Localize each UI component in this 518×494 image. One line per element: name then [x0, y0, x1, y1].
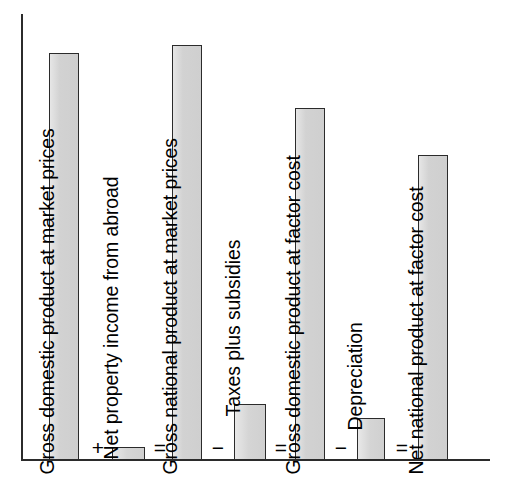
bar-taxes-plus-subsidies	[234, 404, 266, 460]
operator-op-plus-1: +	[88, 437, 108, 458]
x-axis-baseline	[21, 459, 490, 461]
plot-area: Gross domestic product at market pricesN…	[0, 0, 518, 494]
bar-gnp-market-prices	[172, 45, 202, 460]
bar-gdp-factor-cost	[295, 108, 325, 460]
national-accounts-chart: Gross domestic product at market pricesN…	[0, 0, 518, 494]
operator-op-minus-2: −	[331, 437, 351, 458]
operator-op-equals-2: =	[271, 437, 291, 458]
y-axis-line	[21, 14, 23, 461]
bar-depreciation	[357, 418, 385, 460]
operator-op-minus-1: −	[208, 437, 228, 458]
bar-label-taxes-plus-subsidies: Taxes plus subsidies	[224, 240, 244, 417]
bar-gdp-market-prices	[49, 53, 79, 460]
operator-op-equals-1: =	[150, 437, 170, 458]
bar-nnp-factor-cost	[418, 155, 448, 460]
bar-label-net-property-income: Net property income from abroad	[102, 176, 122, 459]
bar-label-depreciation: Depreciation	[346, 322, 366, 430]
operator-op-equals-3: =	[392, 437, 412, 458]
